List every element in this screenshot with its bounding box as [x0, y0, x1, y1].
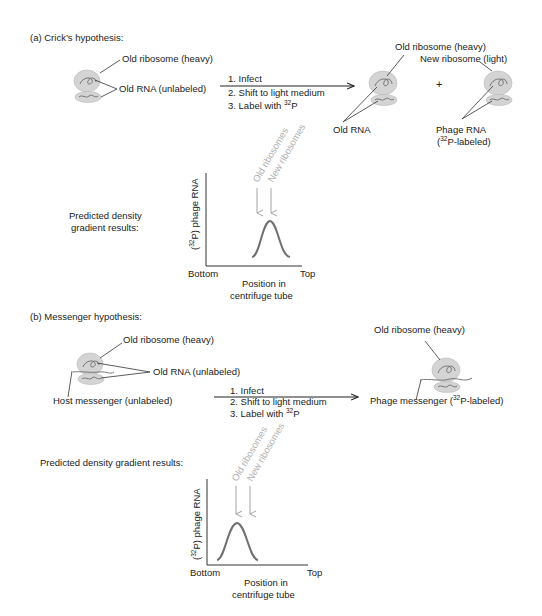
old-ribosome-icon [420, 358, 472, 393]
label-phage-messenger: Phage messenger (32P-labeled) [370, 394, 503, 406]
panel-a-title: (a) Crick’s hypothesis: [30, 32, 123, 43]
plus-sign: + [436, 78, 442, 90]
results-label-line2: gradient results: [71, 222, 139, 233]
label-old-rna-unlabeled: Old RNA (unlabeled) [153, 366, 240, 377]
chart-b: (32P) phage RNA Old ribosomes New riboso… [190, 421, 322, 600]
chart-b-ylabel: (32P) phage RNA [190, 488, 202, 560]
chart-a: (32P) phage RNA Old ribosomes New riboso… [188, 122, 315, 301]
label-old-rna-unlabeled: Old RNA (unlabeled) [119, 83, 206, 94]
label-new-ribosome-light: New ribosome (light) [420, 53, 507, 64]
label-old-rna: Old RNA [333, 124, 371, 135]
chart-a-peak-curve [252, 221, 290, 257]
results-label-line1: Predicted density [69, 210, 142, 221]
leader-line [100, 60, 120, 73]
old-ribosome-icon [369, 71, 397, 106]
label-phage-rna-labeled: (32P-labeled) [437, 135, 491, 147]
step-3: 3. Label with 32P [230, 407, 300, 419]
step-1: 1. Infect [230, 385, 264, 396]
step-2: 2. Shift to light medium [230, 396, 327, 407]
label-old-ribosome-heavy-right: Old ribosome (heavy) [374, 324, 465, 335]
results-label: Predicted density gradient results: [40, 457, 183, 468]
chart-b-peak-curve [217, 523, 258, 560]
label-phage-rna: Phage RNA [436, 124, 487, 135]
leader-line [97, 363, 150, 378]
step-3: 3. Label with 32P [228, 99, 298, 111]
label-old-ribosome-heavy: Old ribosome (heavy) [123, 334, 214, 345]
chart-b-bottom-label: Bottom [190, 567, 220, 578]
panel-b-messenger-hypothesis: (b) Messenger hypothesis: Old ribosome (… [30, 311, 503, 600]
leader-line [387, 55, 404, 76]
label-old-ribosome-heavy: Old ribosome (heavy) [122, 53, 213, 64]
chart-b-xlabel-line2: centrifuge tube [232, 589, 295, 600]
label-host-messenger-unlabeled: Host messenger (unlabeled) [53, 395, 172, 406]
chart-a-bottom-label: Bottom [188, 268, 218, 279]
chart-a-xlabel-line2: centrifuge tube [230, 290, 293, 301]
step-2: 2. Shift to light medium [228, 87, 325, 98]
step-1: 1. Infect [228, 73, 262, 84]
chart-b-xlabel-line1: Position in [244, 577, 288, 588]
old-ribosome-icon [73, 353, 114, 385]
leader-line [100, 343, 122, 358]
chart-a-ylabel: (32P) phage RNA [188, 178, 200, 250]
chart-b-top-label: Top [307, 567, 322, 578]
new-ribosome-icon [484, 71, 512, 106]
chart-a-axes [206, 173, 302, 266]
chart-a-xlabel-line1: Position in [242, 278, 286, 289]
leader-line [425, 341, 440, 360]
panel-a-crick-hypothesis: (a) Crick’s hypothesis: Old ribosome (he… [30, 32, 512, 301]
panel-b-title: (b) Messenger hypothesis: [30, 311, 142, 322]
leader-line [343, 87, 378, 122]
figure-canvas: (a) Crick’s hypothesis: Old ribosome (he… [0, 0, 542, 616]
chart-a-top-label: Top [300, 268, 315, 279]
old-ribosome-icon [74, 70, 101, 103]
label-old-ribosome-heavy-right: Old ribosome (heavy) [395, 41, 486, 52]
leader-line [68, 371, 72, 397]
